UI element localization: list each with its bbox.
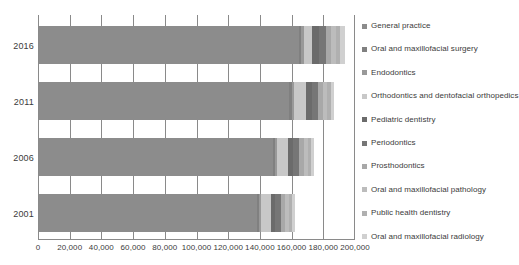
legend-item[interactable]: Orthodontics and dentofacial orthopedics <box>362 91 518 101</box>
legend-swatch-icon <box>362 47 367 52</box>
legend-swatch-icon <box>362 187 367 192</box>
bar-2001[interactable] <box>39 194 298 232</box>
legend-swatch-icon <box>362 211 367 216</box>
bar-segment[interactable] <box>277 138 288 176</box>
bar-2011[interactable] <box>39 82 331 120</box>
legend-label: General practice <box>371 21 431 31</box>
legend-swatch-icon <box>362 234 367 239</box>
legend-swatch-icon <box>362 117 367 122</box>
legend-label: Prosthodontics <box>371 161 425 171</box>
legend-label: Oral and maxillofacial radiology <box>371 232 484 242</box>
y-axis-label-2001: 2001 <box>0 209 34 219</box>
legend-swatch-icon <box>362 94 367 99</box>
plot-right-border <box>354 15 355 240</box>
legend-swatch-icon <box>362 24 367 29</box>
x-axis-tick-60000: 60,000 <box>121 243 146 252</box>
bar-segment[interactable] <box>304 26 312 64</box>
legend-label: Pediatric dentistry <box>371 115 436 125</box>
bar-segment[interactable] <box>319 26 326 64</box>
legend-label: Orthodontics and dentofacial orthopedics <box>371 91 518 101</box>
bar-segment[interactable] <box>311 138 314 176</box>
legend-swatch-icon <box>362 141 367 146</box>
bar-segment[interactable] <box>331 82 334 120</box>
bar-segment[interactable] <box>340 26 345 64</box>
legend-label: Oral and maxillofacial surgery <box>371 44 478 54</box>
x-axis-tick-80000: 80,000 <box>152 243 177 252</box>
x-axis-tick-120000: 120,000 <box>213 243 243 252</box>
y-axis-label-2006: 2006 <box>0 153 34 163</box>
legend-item[interactable]: Public health dentistry <box>362 208 450 218</box>
y-axis-label-2016: 2016 <box>0 41 34 51</box>
x-axis-tick-180000: 180,000 <box>308 243 338 252</box>
x-axis-tick-140000: 140,000 <box>245 243 275 252</box>
legend-label: Endodontics <box>371 68 416 78</box>
legend-item[interactable]: Endodontics <box>362 68 416 78</box>
bar-segment[interactable] <box>39 194 257 232</box>
legend-label: Periodontics <box>371 138 416 148</box>
legend-label: Oral and maxillofacial pathology <box>371 185 486 195</box>
legend-item[interactable]: Oral and maxillofacial radiology <box>362 232 484 242</box>
chart-legend: General practiceOral and maxillofacial s… <box>362 15 519 255</box>
x-axis-tick-100000: 100,000 <box>182 243 212 252</box>
x-axis-tick-40000: 40,000 <box>89 243 114 252</box>
plot-area <box>38 15 355 240</box>
bar-segment[interactable] <box>39 26 299 64</box>
legend-item[interactable]: Oral and maxillofacial pathology <box>362 185 486 195</box>
bar-segment[interactable] <box>261 194 271 232</box>
x-axis-tick-20000: 20,000 <box>57 243 82 252</box>
bar-segment[interactable] <box>39 82 289 120</box>
bar-2016[interactable] <box>39 26 345 64</box>
bar-segment[interactable] <box>39 138 273 176</box>
legend-item[interactable]: General practice <box>362 21 431 31</box>
y-axis-label-2011: 2011 <box>0 97 34 107</box>
x-axis-tick-0: 0 <box>36 243 41 252</box>
x-axis-tick-160000: 160,000 <box>277 243 307 252</box>
legend-swatch-icon <box>362 70 367 75</box>
legend-item[interactable]: Pediatric dentistry <box>362 115 436 125</box>
legend-item[interactable]: Oral and maxillofacial surgery <box>362 44 478 54</box>
bar-segment[interactable] <box>312 26 319 64</box>
stacked-bar-chart: 2016 2011 2006 2001 020,00040,00060,0008… <box>0 0 519 265</box>
legend-item[interactable]: Prosthodontics <box>362 161 425 171</box>
bar-segment[interactable] <box>292 194 295 232</box>
x-axis-labels: 020,00040,00060,00080,000100,000120,0001… <box>0 243 380 257</box>
legend-swatch-icon <box>362 164 367 169</box>
legend-item[interactable]: Periodontics <box>362 138 416 148</box>
y-axis-labels: 2016 2011 2006 2001 <box>0 15 34 240</box>
bar-2006[interactable] <box>39 138 314 176</box>
legend-label: Public health dentistry <box>371 208 450 218</box>
bar-segment[interactable] <box>294 82 306 120</box>
